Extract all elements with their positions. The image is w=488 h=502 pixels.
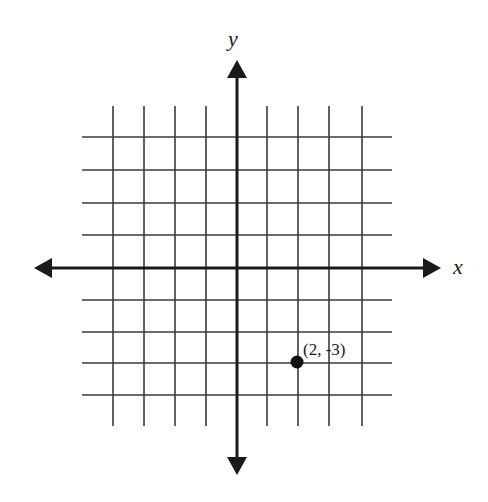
- x-axis-right-arrow-icon: [423, 258, 441, 278]
- x-axis-left-arrow-icon: [34, 258, 52, 278]
- y-axis-label: y: [226, 26, 238, 51]
- point-label: (2, -3): [303, 340, 345, 359]
- x-axis-label: x: [452, 254, 463, 279]
- plotted-point: [291, 356, 304, 369]
- coordinate-plane: x y (2, -3): [0, 0, 488, 502]
- y-axis-up-arrow-icon: [227, 60, 247, 78]
- y-axis-down-arrow-icon: [227, 457, 247, 475]
